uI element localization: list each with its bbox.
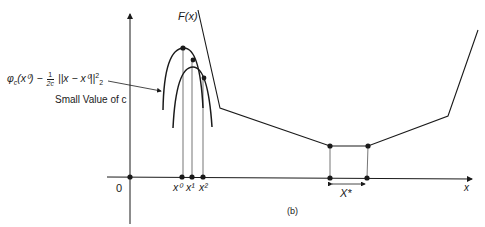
x-star-right-drop xyxy=(367,146,368,178)
iterate-label-x2: x² xyxy=(199,182,208,193)
iterate-label-x0: x⁰ xyxy=(173,182,182,193)
diagram-canvas xyxy=(0,0,485,227)
x-axis xyxy=(107,177,472,179)
axis-point-x1 xyxy=(189,174,194,179)
x-star-left-top-point xyxy=(327,143,332,148)
parabola-2 xyxy=(173,67,212,128)
axis-point-x0 xyxy=(179,174,184,179)
figure-caption: (b) xyxy=(287,207,298,216)
formula-pointer xyxy=(108,81,161,91)
norm-subscript: 2 xyxy=(99,79,103,86)
axis-point-x2 xyxy=(200,174,205,179)
origin-label: 0 xyxy=(116,183,122,194)
x-star-right-axis-point xyxy=(364,175,369,180)
phi-symbol: φ xyxy=(7,72,14,84)
phi-argument: (x⁰) − xyxy=(17,72,42,84)
fraction-numerator: 1 xyxy=(47,71,54,80)
f-of-x-curve xyxy=(198,10,478,146)
point-on-curve-x0 xyxy=(180,45,185,50)
point-on-curve-x2 xyxy=(202,76,207,81)
x-star-right-top-point xyxy=(365,143,370,148)
iterate-label-x1: x¹ xyxy=(186,182,195,193)
point-on-curve-x1 xyxy=(191,58,196,63)
origin-point xyxy=(127,174,132,179)
fraction: 12c xyxy=(47,71,54,88)
norm-term: ||x − x⁰|| xyxy=(58,72,95,84)
solution-set-label: X* xyxy=(340,188,352,199)
f-of-x-label: F(x) xyxy=(178,11,198,22)
norm-superscript: 2 xyxy=(95,72,99,79)
proximal-formula-label: φc(x⁰) − 12c ||x − x⁰||22 xyxy=(7,71,103,88)
x-axis-label: x xyxy=(464,183,469,193)
fraction-denominator: 2c xyxy=(47,80,54,88)
small-c-note: Small Value of c xyxy=(55,95,127,105)
x-star-left-axis-point xyxy=(327,175,332,180)
